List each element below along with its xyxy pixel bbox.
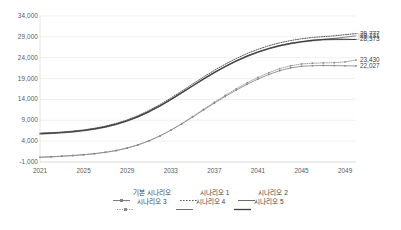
- series-marker: [83, 154, 85, 156]
- series-marker: [355, 65, 357, 67]
- series-line: [40, 36, 356, 133]
- legend-item[interactable]: 기본 시나리오: [113, 190, 171, 197]
- x-axis-tick-label: 2033: [164, 168, 178, 174]
- series-marker: [203, 109, 205, 111]
- end-value-label: 22,027: [360, 63, 380, 69]
- series-marker: [246, 84, 248, 86]
- series-marker: [181, 123, 183, 125]
- series-marker: [257, 77, 259, 79]
- legend-label: 시나리오 2: [258, 190, 288, 197]
- legend-label: 시나리오 3: [137, 199, 167, 206]
- x-axis-tick-label: 2045: [294, 168, 308, 174]
- series-marker: [105, 152, 107, 154]
- series-marker: [148, 140, 150, 142]
- series-marker: [126, 147, 128, 149]
- legend-label: 시나리오 5: [254, 199, 284, 206]
- x-axis-tick-label: 2029: [120, 168, 134, 174]
- series-marker: [159, 135, 161, 137]
- series-marker: [333, 65, 335, 67]
- series-line: [40, 39, 356, 133]
- series-marker: [50, 156, 52, 158]
- series-marker: [355, 59, 357, 61]
- series-marker: [301, 66, 303, 68]
- series-marker: [290, 65, 292, 67]
- series-marker: [246, 82, 248, 84]
- legend-key-icon: [176, 199, 193, 206]
- series-marker: [192, 116, 194, 118]
- legend-row: 기본 시나리오시나리오 1시나리오 2: [113, 190, 288, 197]
- legend-row: 시나리오 3시나리오 4시나리오 5: [117, 199, 284, 206]
- x-axis-tick-label: 2049: [338, 168, 352, 174]
- x-axis-tick-label: 2021: [33, 168, 47, 174]
- series-marker: [235, 88, 237, 90]
- legend-label: 기본 시나리오: [133, 190, 171, 197]
- x-axis-tick-label: 2037: [207, 168, 221, 174]
- series-marker: [333, 62, 335, 64]
- legend-key-icon: [238, 190, 255, 197]
- series-marker: [344, 65, 346, 67]
- legend-key-icon: [234, 199, 251, 206]
- legend-item[interactable]: 시나리오 3: [117, 199, 167, 206]
- series-marker: [116, 150, 118, 152]
- series-marker: [170, 129, 172, 131]
- series-marker: [268, 74, 270, 76]
- legend-key-icon: [113, 190, 130, 197]
- series-marker: [312, 65, 314, 67]
- x-axis-tick-label: 2025: [76, 168, 90, 174]
- series-marker: [268, 72, 270, 74]
- legend-label: 시나리오 4: [196, 199, 226, 206]
- chart-legend: 기본 시나리오시나리오 1시나리오 2시나리오 3시나리오 4시나리오 5: [0, 190, 401, 206]
- series-marker: [72, 155, 74, 157]
- series-marker: [344, 61, 346, 63]
- x-axis-tick-label: 2041: [251, 168, 265, 174]
- legend-item[interactable]: 시나리오 5: [234, 199, 284, 206]
- series-marker: [214, 101, 216, 103]
- series-marker: [224, 95, 226, 97]
- series-marker: [137, 144, 139, 146]
- legend-item[interactable]: 시나리오 4: [176, 199, 226, 206]
- legend-item[interactable]: 시나리오 1: [180, 190, 230, 197]
- series-marker: [279, 68, 281, 70]
- legend-key-icon: [117, 199, 134, 206]
- series-marker: [312, 62, 314, 64]
- end-value-label: 28,373: [360, 36, 380, 42]
- series-marker: [94, 153, 96, 155]
- series-marker: [257, 78, 259, 80]
- series-marker: [290, 67, 292, 69]
- series-marker: [279, 70, 281, 72]
- legend-key-icon: [180, 190, 197, 197]
- series-marker: [323, 62, 325, 64]
- end-value-labels: 29,77729,23128,37323,43022,027: [360, 14, 401, 84]
- x-axis: 20212025202920332037204120452049: [40, 166, 356, 178]
- line-chart: 34,00029,00024,00019,00014,0009,0004,000…: [0, 0, 401, 230]
- label-leader-bracket: [356, 34, 359, 40]
- legend-label: 시나리오 1: [200, 190, 230, 197]
- series-marker: [323, 65, 325, 67]
- series-line: [40, 60, 356, 157]
- series-line: [40, 66, 356, 158]
- series-marker: [301, 63, 303, 65]
- legend-item[interactable]: 시나리오 2: [238, 190, 288, 197]
- series-marker: [61, 156, 63, 158]
- series-line: [40, 39, 356, 134]
